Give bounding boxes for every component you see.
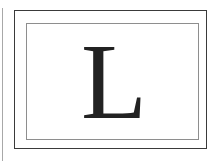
letter-glyph: L <box>0 0 210 161</box>
